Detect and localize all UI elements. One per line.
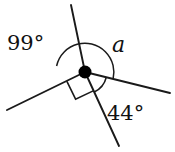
angle-label-99-degrees: 99° [7,33,44,54]
arc-44-degrees [94,77,106,92]
left-ray [7,72,85,110]
angle-label-44-degrees: 44° [107,103,144,124]
angle-diagram-figure: 99° a 44° [0,0,175,152]
angle-label-a: a [112,34,125,56]
arc-99-degrees [57,44,78,66]
diagram-canvas [0,0,175,152]
vertex-point [79,66,92,79]
upper-ray [71,5,85,72]
